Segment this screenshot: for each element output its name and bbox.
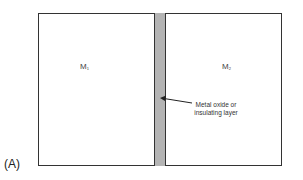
layer-annotation: Metal oxide or insulating layer (188, 101, 244, 116)
annotation-line-1: Metal oxide or (188, 101, 244, 109)
insulating-layer (154, 13, 166, 166)
metal-1-subscript: 1 (87, 66, 89, 71)
metal-2-label: M2 (222, 62, 231, 71)
annotation-line-2: insulating layer (188, 109, 244, 117)
metal-1-label: M1 (80, 62, 89, 71)
metal-1-name: M (80, 62, 87, 71)
panel-label: (A) (4, 157, 20, 171)
metal-2-name: M (222, 62, 229, 71)
metal-2-subscript: 2 (229, 66, 231, 71)
